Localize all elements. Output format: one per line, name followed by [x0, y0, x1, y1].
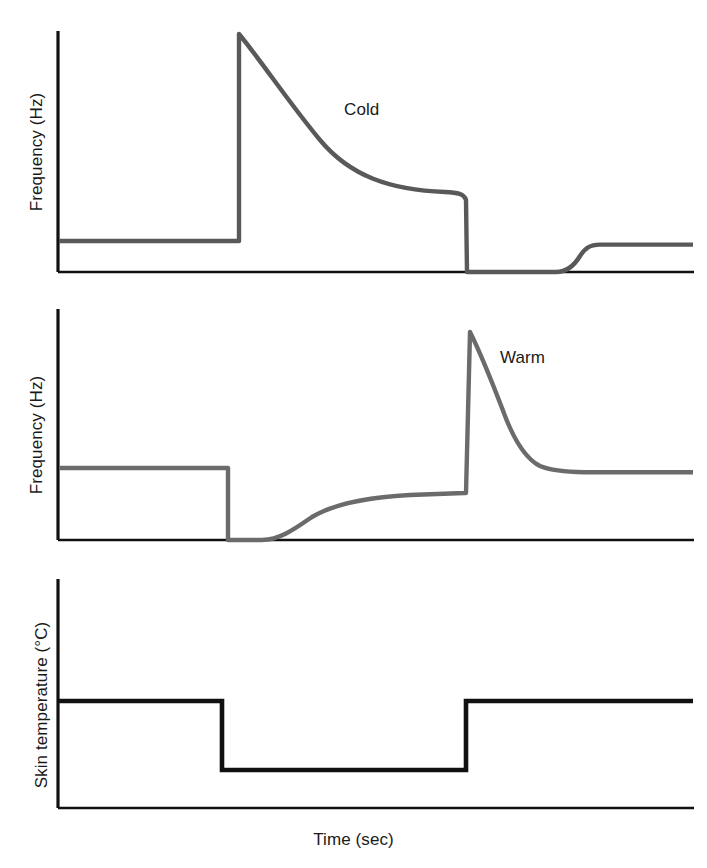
thermoreceptor-figure: Frequency (Hz) Cold Frequency (Hz) Warm …: [0, 0, 707, 868]
cold-curve-label: Cold: [344, 100, 379, 120]
cold-plot-area: [0, 0, 707, 290]
panel-skin-temperature: Skin temperature (°C) Time (sec): [0, 560, 707, 868]
warm-response-trace: [59, 332, 693, 540]
warm-plot-area: [0, 290, 707, 560]
x-axis-label: Time (sec): [0, 830, 707, 850]
panel-warm: Frequency (Hz) Warm: [0, 290, 707, 560]
skin-temperature-plot-area: [0, 560, 707, 868]
skin-temperature-trace: [59, 701, 693, 770]
panel-cold: Frequency (Hz) Cold: [0, 0, 707, 290]
cold-response-trace: [59, 34, 693, 272]
warm-curve-label: Warm: [500, 348, 545, 368]
